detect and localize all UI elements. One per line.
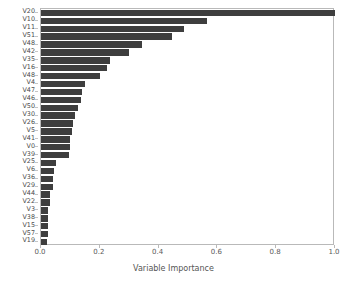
y-tick-mark — [35, 233, 38, 234]
y-tick-mark — [35, 83, 38, 84]
y-tick-label: V30 — [22, 111, 35, 118]
y-tick-label: V26 — [22, 119, 35, 126]
bar — [41, 223, 48, 229]
y-tick-label: V38 — [22, 214, 35, 221]
y-tick-mark — [35, 75, 38, 76]
y-tick-label: V44 — [22, 190, 35, 197]
y-tick-mark — [35, 51, 38, 52]
bar — [41, 26, 184, 32]
bar — [41, 160, 56, 166]
bar — [41, 10, 335, 16]
bar — [41, 73, 100, 79]
y-tick-mark — [35, 130, 38, 131]
y-tick-mark — [35, 59, 38, 60]
y-tick-label: V5 — [27, 127, 35, 134]
y-tick-label: V19 — [22, 237, 35, 244]
y-tick-mark — [35, 217, 38, 218]
y-tick-label: V16 — [22, 64, 35, 71]
bar — [41, 191, 50, 197]
y-tick-mark — [35, 28, 38, 29]
bar — [41, 97, 81, 103]
x-tick-label: 0.2 — [93, 248, 104, 256]
y-tick-mark — [35, 123, 38, 124]
bar — [41, 144, 70, 150]
bar — [41, 33, 172, 39]
y-tick-mark — [35, 36, 38, 37]
y-tick-mark — [35, 241, 38, 242]
y-tick-mark — [35, 170, 38, 171]
x-tick-label: 0.6 — [211, 248, 222, 256]
variable-importance-chart: V20V10V11V51V48V42V35V16V48V4V47V46V50V3… — [0, 0, 347, 287]
bar — [41, 136, 70, 142]
y-tick-label: V22 — [22, 198, 35, 205]
y-axis-labels: V20V10V11V51V48V42V35V16V48V4V47V46V50V3… — [0, 8, 38, 245]
y-tick-label: V42 — [22, 48, 35, 55]
y-tick-mark — [35, 67, 38, 68]
bar — [41, 199, 50, 205]
y-tick-label: V48 — [22, 40, 35, 47]
y-tick-label: V0 — [27, 143, 35, 150]
y-tick-mark — [35, 225, 38, 226]
bar — [41, 18, 207, 24]
y-tick-mark — [35, 91, 38, 92]
y-tick-mark — [35, 194, 38, 195]
bar — [41, 41, 142, 47]
x-tick-label: 0.4 — [152, 248, 163, 256]
bar — [41, 207, 48, 213]
y-tick-mark — [35, 44, 38, 45]
bar — [41, 231, 48, 237]
bar-series — [41, 9, 333, 244]
bar — [41, 57, 110, 63]
y-tick-label: V3 — [27, 206, 35, 213]
y-tick-label: V41 — [22, 135, 35, 142]
y-tick-mark — [35, 186, 38, 187]
y-tick-mark — [35, 209, 38, 210]
y-tick-mark — [35, 20, 38, 21]
plot-area — [40, 8, 334, 245]
bar — [41, 184, 53, 190]
bar — [41, 215, 48, 221]
bar — [41, 65, 107, 71]
bar — [41, 152, 69, 158]
bar — [41, 81, 85, 87]
bar — [41, 89, 82, 95]
bar — [41, 128, 72, 134]
y-tick-mark — [35, 99, 38, 100]
x-axis-ticks: 0.00.20.40.60.81.0 — [40, 245, 334, 257]
bar — [41, 176, 53, 182]
y-tick-mark — [35, 115, 38, 116]
y-tick-label: V51 — [22, 32, 35, 39]
y-tick-mark — [35, 202, 38, 203]
x-tick-label: 1.0 — [328, 248, 339, 256]
y-tick-mark — [35, 162, 38, 163]
y-tick-mark — [35, 12, 38, 13]
bar — [41, 105, 78, 111]
bar — [41, 49, 129, 55]
x-tick-label: 0.8 — [270, 248, 281, 256]
y-tick-label: V35 — [22, 56, 35, 63]
bar — [41, 120, 73, 126]
bar — [41, 112, 75, 118]
bar — [41, 168, 54, 174]
y-tick-mark — [35, 146, 38, 147]
y-tick-mark — [35, 107, 38, 108]
y-tick-mark — [35, 154, 38, 155]
y-tick-label: V15 — [22, 222, 35, 229]
y-tick-mark — [35, 178, 38, 179]
x-axis-title: Variable Importance — [0, 264, 347, 273]
x-tick-label: 0.0 — [34, 248, 45, 256]
y-tick-mark — [35, 138, 38, 139]
